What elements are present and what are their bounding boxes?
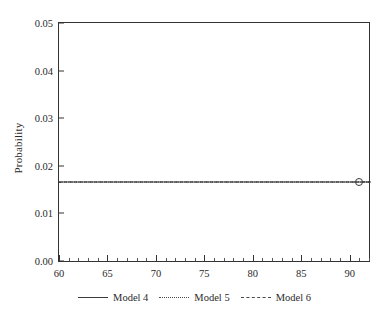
plot-area: 0.000.010.020.030.040.0560657075808590 <box>58 22 370 262</box>
legend-entry[interactable]: Model 4 <box>78 292 148 303</box>
x-axis-minor-tick <box>330 258 331 262</box>
x-axis-tick <box>350 255 351 261</box>
x-axis-minor-tick <box>146 258 147 262</box>
legend-label: Model 5 <box>194 292 229 303</box>
legend-swatch-dashed-icon <box>241 297 271 298</box>
x-axis-tick-label: 80 <box>248 268 259 279</box>
end-marker-tail <box>362 181 371 182</box>
x-axis-minor-tick <box>243 258 244 262</box>
x-axis-tick <box>301 255 302 261</box>
x-axis-minor-tick <box>137 258 138 262</box>
series-line-model-4 <box>59 181 369 182</box>
x-axis-minor-tick <box>262 258 263 262</box>
x-axis-tick-label: 90 <box>344 268 355 279</box>
x-axis-minor-tick <box>78 258 79 262</box>
x-axis-minor-tick <box>292 258 293 262</box>
x-axis-minor-tick <box>224 258 225 262</box>
legend-swatch-solid-icon <box>78 297 108 298</box>
x-axis-minor-tick <box>272 258 273 262</box>
y-axis-tick <box>59 23 64 24</box>
x-axis-tick <box>107 255 108 261</box>
x-axis-minor-tick <box>117 258 118 262</box>
x-axis-tick-label: 60 <box>54 268 65 279</box>
chart-legend: Model 4Model 5Model 6 <box>0 292 389 303</box>
x-axis-minor-tick <box>88 258 89 262</box>
x-axis-minor-tick <box>340 258 341 262</box>
x-axis-tick <box>204 255 205 261</box>
probability-line-chart: Probability 0.000.010.020.030.040.056065… <box>0 0 389 317</box>
x-axis-minor-tick <box>166 258 167 262</box>
x-axis-tick <box>59 255 60 261</box>
x-axis-tick-label: 70 <box>151 268 162 279</box>
legend-label: Model 6 <box>276 292 311 303</box>
x-axis-minor-tick <box>282 258 283 262</box>
legend-entry[interactable]: Model 6 <box>241 292 311 303</box>
x-axis-minor-tick <box>98 258 99 262</box>
y-axis-tick-label: 0.04 <box>35 65 53 76</box>
legend-swatch-dotted-icon <box>159 297 189 298</box>
y-axis-tick-label: 0.05 <box>35 18 53 29</box>
y-axis-tick-label: 0.03 <box>35 113 53 124</box>
x-axis-minor-tick <box>127 258 128 262</box>
y-axis-tick <box>59 70 64 71</box>
x-axis-tick-label: 65 <box>102 268 113 279</box>
x-axis-minor-tick <box>214 258 215 262</box>
x-axis-tick <box>156 255 157 261</box>
y-axis-tick <box>59 165 64 166</box>
legend-label: Model 4 <box>113 292 148 303</box>
x-axis-minor-tick <box>311 258 312 262</box>
y-axis-tick <box>59 213 64 214</box>
y-axis-tick <box>59 118 64 119</box>
y-axis-title: Probability <box>12 93 24 203</box>
x-axis-minor-tick <box>369 258 370 262</box>
x-axis-tick-label: 85 <box>296 268 307 279</box>
x-axis-minor-tick <box>195 258 196 262</box>
x-axis-minor-tick <box>185 258 186 262</box>
x-axis-minor-tick <box>69 258 70 262</box>
x-axis-minor-tick <box>233 258 234 262</box>
y-axis-tick-label: 0.02 <box>35 160 53 171</box>
legend-entry[interactable]: Model 5 <box>159 292 229 303</box>
x-axis-minor-tick <box>359 258 360 262</box>
y-axis-tick-label: 0.00 <box>35 256 53 267</box>
x-axis-minor-tick <box>175 258 176 262</box>
x-axis-tick <box>253 255 254 261</box>
y-axis-tick-label: 0.01 <box>35 208 53 219</box>
x-axis-minor-tick <box>321 258 322 262</box>
x-axis-tick-label: 75 <box>199 268 210 279</box>
